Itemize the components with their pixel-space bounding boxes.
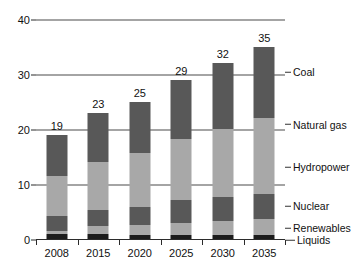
x-axis-tick-label: 2020 (128, 248, 152, 259)
legend-label: Liquids (295, 235, 330, 246)
legend-entry-coal[interactable]: Coal (285, 67, 315, 78)
x-tick-mark (202, 240, 203, 245)
bar-total-label: 23 (92, 99, 104, 110)
bar-2008[interactable] (46, 135, 67, 239)
bar-segment-liquids[interactable] (212, 235, 233, 239)
bar-segment-nuclear[interactable] (129, 207, 150, 226)
bar-segment-hydropower[interactable] (46, 200, 67, 217)
bar-segment-liquids[interactable] (254, 235, 275, 239)
y-axis-tick-label: 10 (18, 180, 36, 191)
gridline-20 (36, 130, 285, 131)
legend-label: Hydropower (291, 162, 350, 173)
bar-segment-renewables[interactable] (88, 226, 109, 234)
legend-label: Natural gas (291, 119, 347, 130)
x-axis-tick-label: 2030 (211, 248, 235, 259)
x-tick-mark (119, 240, 120, 245)
gridline-40 (36, 20, 285, 21)
bar-total-label: 25 (134, 88, 146, 99)
bar-total-label: 35 (258, 33, 270, 44)
bar-segment-coal[interactable] (212, 63, 233, 129)
bar-segment-nuclear[interactable] (171, 200, 192, 223)
bar-segment-renewables[interactable] (254, 219, 275, 236)
bar-2025[interactable] (171, 80, 192, 239)
bar-segment-coal[interactable] (46, 135, 67, 176)
y-axis-tick-label: 20 (18, 125, 36, 136)
legend-label: Nuclear (291, 201, 329, 212)
legend-entry-renewables[interactable]: Renewables (285, 223, 351, 234)
legend-entry-nuclear[interactable]: Nuclear (285, 201, 329, 212)
bar-total-label: 32 (217, 49, 229, 60)
bar-2020[interactable] (129, 102, 150, 239)
bar-2015[interactable] (88, 113, 109, 239)
bar-segment-nuclear[interactable] (212, 197, 233, 221)
bar-2030[interactable] (212, 63, 233, 239)
bar-total-label: 29 (175, 66, 187, 77)
legend-entry-natural-gas[interactable]: Natural gas (285, 119, 347, 130)
legend-label: Coal (291, 67, 315, 78)
bar-segment-natural-gas[interactable] (212, 129, 233, 174)
bar-segment-liquids[interactable] (129, 235, 150, 239)
bar-segment-liquids[interactable] (46, 234, 67, 239)
y-axis-tick-label: 30 (18, 70, 36, 81)
x-tick-mark (161, 240, 162, 245)
plot-area: 0102030401920082320152520202920253220303… (36, 20, 285, 240)
bar-segment-hydropower[interactable] (129, 187, 150, 207)
gridline-10 (36, 185, 285, 186)
bar-segment-liquids[interactable] (171, 235, 192, 239)
bar-segment-renewables[interactable] (129, 225, 150, 234)
x-axis-tick-label: 2015 (86, 248, 110, 259)
bar-segment-hydropower[interactable] (212, 174, 233, 197)
x-tick-mark (78, 240, 79, 245)
x-tick-mark (36, 240, 37, 245)
bar-segment-hydropower[interactable] (254, 169, 275, 194)
bar-segment-natural-gas[interactable] (254, 118, 275, 169)
gridline-30 (36, 75, 285, 76)
bar-segment-natural-gas[interactable] (88, 162, 109, 192)
bar-segment-natural-gas[interactable] (129, 153, 150, 187)
bar-segment-natural-gas[interactable] (171, 139, 192, 178)
bar-segment-hydropower[interactable] (171, 179, 192, 200)
x-axis-tick-label: 2025 (169, 248, 193, 259)
bar-segment-natural-gas[interactable] (46, 176, 67, 200)
bar-total-label: 19 (51, 121, 63, 132)
bar-segment-renewables[interactable] (212, 221, 233, 235)
legend-leader-line (285, 240, 295, 241)
bar-2035[interactable] (254, 47, 275, 239)
x-axis-tick-label: 2035 (252, 248, 276, 259)
x-axis-tick-label: 2008 (45, 248, 69, 259)
bar-segment-coal[interactable] (129, 102, 150, 153)
bar-segment-renewables[interactable] (171, 223, 192, 236)
bar-segment-nuclear[interactable] (88, 210, 109, 226)
bar-segment-coal[interactable] (171, 80, 192, 140)
legend-entry-hydropower[interactable]: Hydropower (285, 162, 350, 173)
y-axis-tick-label: 0 (24, 235, 36, 246)
legend-entry-liquids[interactable]: Liquids (285, 235, 330, 246)
legend-label: Renewables (291, 223, 351, 234)
bar-segment-coal[interactable] (254, 47, 275, 119)
x-tick-mark (244, 240, 245, 245)
bar-segment-hydropower[interactable] (88, 192, 109, 210)
bar-segment-coal[interactable] (88, 113, 109, 163)
bar-segment-nuclear[interactable] (46, 216, 67, 230)
bar-segment-nuclear[interactable] (254, 194, 275, 219)
y-axis-tick-label: 40 (18, 15, 36, 26)
bar-segment-liquids[interactable] (88, 234, 109, 239)
